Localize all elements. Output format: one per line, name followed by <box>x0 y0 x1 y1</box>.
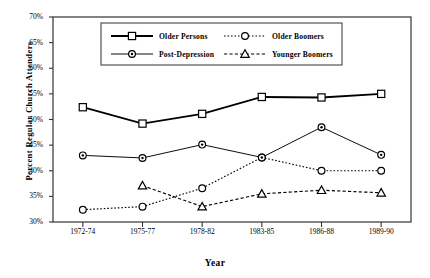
legend-label: Post-Depression <box>159 50 215 59</box>
data-point-marker <box>79 104 86 111</box>
chart-container: Percent Regular Church Attenders Year 30… <box>0 0 430 278</box>
data-point-marker <box>377 189 385 196</box>
data-point-marker <box>199 185 206 192</box>
series-line <box>83 94 381 124</box>
data-point-marker <box>378 167 385 174</box>
data-point-marker <box>79 152 86 159</box>
data-point-marker <box>378 151 385 158</box>
legend-label: Older Persons <box>159 32 208 41</box>
legend-label: Older Boomers <box>272 32 324 41</box>
data-point-marker <box>138 181 146 188</box>
series-line <box>83 157 381 209</box>
series-line <box>83 127 381 158</box>
legend: Older PersonsOlder BoomersPost-Depressio… <box>101 23 342 65</box>
data-point-marker <box>139 120 146 127</box>
data-point-marker <box>139 203 146 210</box>
plot-area: Older PersonsOlder BoomersPost-Depressio… <box>0 0 430 278</box>
data-point-marker <box>378 90 385 97</box>
data-point-marker <box>129 51 136 58</box>
series-younger-boomers <box>138 181 385 209</box>
data-point-marker <box>258 93 265 100</box>
data-point-marker <box>318 124 325 131</box>
data-point-marker <box>318 94 325 101</box>
data-point-marker <box>199 141 206 148</box>
data-point-marker <box>199 110 206 117</box>
series-older-persons <box>79 90 385 127</box>
legend-label: Younger Boomers <box>272 50 333 59</box>
series-post-depression <box>79 124 384 162</box>
data-point-marker <box>258 154 265 161</box>
series-older-boomers <box>79 154 384 213</box>
data-point-marker <box>79 206 86 213</box>
data-point-marker <box>317 186 325 193</box>
data-point-marker <box>242 33 249 40</box>
data-point-marker <box>318 167 325 174</box>
data-point-marker <box>139 155 146 162</box>
data-point-marker <box>128 32 135 39</box>
